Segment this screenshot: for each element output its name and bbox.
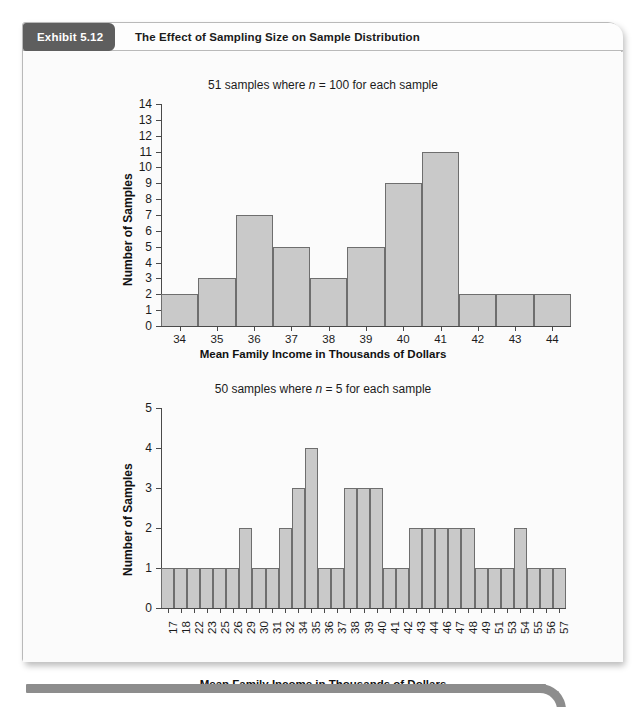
x-tick-mark: [233, 608, 234, 613]
histogram-bar: [305, 448, 318, 608]
x-tick-label: 38: [350, 622, 362, 634]
histogram-bar: [475, 568, 488, 608]
x-tick-label: 56: [546, 622, 558, 634]
x-tick-mark: [559, 608, 560, 613]
x-tick-label: 42: [464, 334, 492, 346]
x-tick-label: 46: [442, 622, 454, 634]
y-tick-label: 13: [128, 114, 152, 126]
x-tick-label: 49: [481, 622, 493, 634]
x-tick-label: 35: [311, 622, 323, 634]
x-tick-mark: [324, 608, 325, 613]
x-tick-mark: [364, 608, 365, 613]
histogram-bar: [553, 568, 566, 608]
x-tick-label: 41: [427, 334, 455, 346]
exhibit-header: Exhibit 5.12 The Effect of Sampling Size…: [23, 23, 623, 51]
x-tick-mark: [494, 608, 495, 613]
y-axis-label: Number of Samples: [121, 463, 135, 576]
x-tick-mark: [194, 608, 195, 613]
y-tick-mark: [156, 408, 161, 409]
x-tick-label: 44: [429, 622, 441, 634]
y-tick-mark: [156, 120, 161, 121]
exhibit-number-tab: Exhibit 5.12: [23, 23, 115, 51]
chart-bottom: 50 samples where n = 5 for each sampleNu…: [23, 360, 623, 660]
exhibit-title: The Effect of Sampling Size on Sample Di…: [135, 23, 420, 51]
y-tick-label: 2: [128, 288, 152, 300]
y-tick-label: 14: [128, 98, 152, 110]
histogram-bar: [310, 278, 347, 326]
x-tick-label: 25: [220, 622, 232, 634]
x-tick-label: 32: [285, 622, 297, 634]
histogram-bar: [273, 247, 310, 326]
x-tick-label: 31: [272, 622, 284, 634]
chart-title: 50 samples where n = 5 for each sample: [23, 382, 623, 396]
histogram-bar: [236, 215, 273, 326]
x-axis-label: Mean Family Income in Thousands of Dolla…: [23, 348, 623, 360]
y-tick-label: 9: [128, 177, 152, 189]
x-tick-label: 26: [233, 622, 245, 634]
y-tick-label: 3: [128, 272, 152, 284]
x-tick-mark: [337, 608, 338, 613]
histogram-bar: [540, 568, 553, 608]
histogram-bar: [488, 568, 501, 608]
histogram-bar: [331, 568, 344, 608]
x-tick-label: 51: [494, 622, 506, 634]
x-tick-mark: [552, 326, 553, 331]
y-tick-mark: [156, 528, 161, 529]
x-tick-mark: [246, 608, 247, 613]
histogram-bar: [292, 488, 305, 608]
exhibit-page: Exhibit 5.12 The Effect of Sampling Size…: [0, 0, 642, 707]
x-tick-mark: [329, 326, 330, 331]
x-tick-mark: [403, 326, 404, 331]
x-tick-mark: [366, 326, 367, 331]
x-tick-mark: [455, 608, 456, 613]
y-tick-mark: [156, 326, 161, 327]
x-tick-mark: [220, 608, 221, 613]
x-tick-label: 35: [203, 334, 231, 346]
x-tick-label: 44: [538, 334, 566, 346]
x-tick-label: 54: [520, 622, 532, 634]
x-tick-label: 23: [207, 622, 219, 634]
histogram-bar: [161, 294, 198, 326]
y-tick-mark: [156, 247, 161, 248]
x-tick-label: 43: [416, 622, 428, 634]
y-tick-label: 4: [128, 442, 152, 454]
y-tick-mark: [156, 488, 161, 489]
x-tick-label: 42: [403, 622, 415, 634]
x-tick-label: 41: [390, 622, 402, 634]
y-tick-mark: [156, 152, 161, 153]
x-tick-mark: [533, 608, 534, 613]
plot-area: 0123451718222325262930313234353637383940…: [161, 408, 566, 608]
x-tick-label: 34: [166, 334, 194, 346]
x-tick-mark: [520, 608, 521, 613]
y-tick-mark: [156, 448, 161, 449]
y-tick-label: 1: [128, 304, 152, 316]
x-tick-mark: [350, 608, 351, 613]
decorative-rule: [26, 684, 546, 693]
y-tick-mark: [156, 263, 161, 264]
histogram-bar: [266, 568, 279, 608]
histogram-bar: [409, 528, 422, 608]
histogram-bar: [174, 568, 187, 608]
x-tick-label: 37: [277, 334, 305, 346]
x-tick-label: 39: [364, 622, 376, 634]
x-tick-mark: [468, 608, 469, 613]
y-tick-mark: [156, 231, 161, 232]
y-tick-label: 8: [128, 193, 152, 205]
y-tick-mark: [156, 183, 161, 184]
x-tick-label: 53: [507, 622, 519, 634]
histogram-bar: [198, 278, 235, 326]
y-tick-label: 11: [128, 146, 152, 158]
histogram-bar: [318, 568, 331, 608]
histogram-bar: [370, 488, 383, 608]
x-tick-mark: [311, 608, 312, 613]
x-tick-label: 48: [468, 622, 480, 634]
x-tick-mark: [403, 608, 404, 613]
histogram-bar: [461, 528, 474, 608]
histogram-bar: [187, 568, 200, 608]
y-tick-mark: [156, 167, 161, 168]
x-tick-mark: [390, 608, 391, 613]
x-tick-label: 17: [168, 622, 180, 634]
histogram-bar: [459, 294, 496, 326]
x-tick-mark: [481, 608, 482, 613]
histogram-bar: [501, 568, 514, 608]
